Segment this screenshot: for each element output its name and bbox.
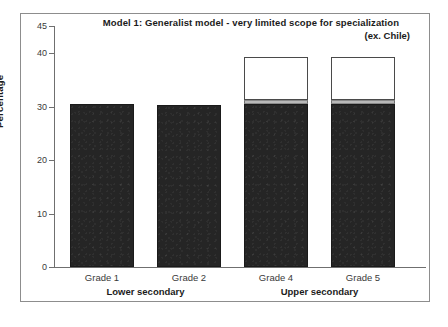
bar-segment-core-grade-2 [157,105,221,267]
bar-grade-1[interactable] [70,104,134,267]
bar-segment-core-grade-5 [331,104,395,267]
y-tick-mark-0 [49,267,54,268]
y-tick-label-45: 45 [29,21,47,31]
y-tick-mark-30 [49,107,54,108]
y-tick-mark-10 [49,214,54,215]
x-tick-label-grade-2: Grade 2 [157,272,221,283]
bar-grade-4[interactable] [244,57,308,267]
bar-grade-2[interactable] [157,105,221,267]
chart-title-block: Model 1: Generalist model - very limited… [90,17,412,42]
x-axis-line [54,267,426,268]
x-group-label-lower-secondary: Lower secondary [70,286,221,297]
y-tick-label-0: 0 [29,262,47,272]
bar-segment-optional-grade-4 [244,57,308,100]
y-tick-label-40: 40 [29,48,47,58]
x-tick-label-grade-1: Grade 1 [70,272,134,283]
y-tick-mark-45 [49,26,54,27]
bar-segment-core-grade-1 [70,104,134,267]
y-tick-label-20: 20 [29,155,47,165]
y-tick-label-10: 10 [29,209,47,219]
page-title: Model 1: Generalist model - very limited… [90,17,412,29]
chart-figure: Model 1: Generalist model - very limited… [0,0,448,327]
y-axis-line [54,26,55,268]
bar-segment-optional-grade-5 [331,57,395,100]
y-tick-mark-20 [49,160,54,161]
y-tick-mark-40 [49,53,54,54]
y-tick-label-30: 30 [29,102,47,112]
x-tick-label-grade-4: Grade 4 [244,272,308,283]
bar-segment-core-grade-4 [244,104,308,267]
y-axis-title: Percentage [0,75,5,128]
bar-grade-5[interactable] [331,57,395,267]
chart-subtitle: (ex. Chile) [90,29,412,42]
x-tick-label-grade-5: Grade 5 [331,272,395,283]
x-group-label-upper-secondary: Upper secondary [244,286,395,297]
